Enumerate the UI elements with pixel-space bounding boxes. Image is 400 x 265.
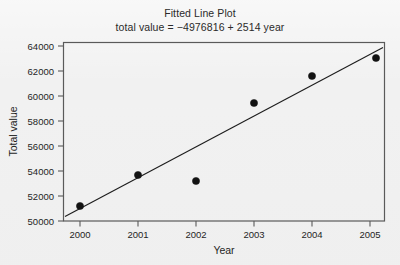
fitted-regression-line <box>65 48 383 217</box>
x-tick-label: 2004 <box>301 229 322 240</box>
x-tick-label: 2001 <box>127 229 148 240</box>
y-tick-label: 62000 <box>28 66 54 77</box>
y-tick-label: 50000 <box>28 216 54 227</box>
y-tick-label: 58000 <box>28 116 54 127</box>
y-axis-tick-labels: 64000 62000 60000 58000 56000 54000 5200… <box>28 41 54 227</box>
y-axis-ticks <box>58 46 64 221</box>
data-point <box>192 177 199 184</box>
x-tick-label: 2000 <box>69 229 90 240</box>
y-axis-title: Total value <box>7 106 19 156</box>
chart-page: Fitted Line Plot total value = −4976816 … <box>0 0 400 265</box>
y-tick-label: 52000 <box>28 191 54 202</box>
data-point <box>250 99 257 106</box>
y-tick-label: 56000 <box>28 141 54 152</box>
x-tick-label: 2005 <box>359 229 380 240</box>
x-axis-title: Year <box>213 244 235 256</box>
y-tick-label: 64000 <box>28 41 54 52</box>
y-tick-label: 54000 <box>28 166 54 177</box>
y-tick-label: 60000 <box>28 91 54 102</box>
data-point <box>76 202 83 209</box>
data-point <box>308 72 315 79</box>
data-point <box>134 171 141 178</box>
x-tick-label: 2002 <box>185 229 206 240</box>
x-axis-tick-labels: 2000 2001 2002 2003 2004 2005 <box>69 229 380 240</box>
x-axis-ticks <box>80 221 370 227</box>
x-tick-label: 2003 <box>243 229 264 240</box>
data-point <box>372 54 379 61</box>
fitted-line-plot: 64000 62000 60000 58000 56000 54000 5200… <box>0 0 400 265</box>
